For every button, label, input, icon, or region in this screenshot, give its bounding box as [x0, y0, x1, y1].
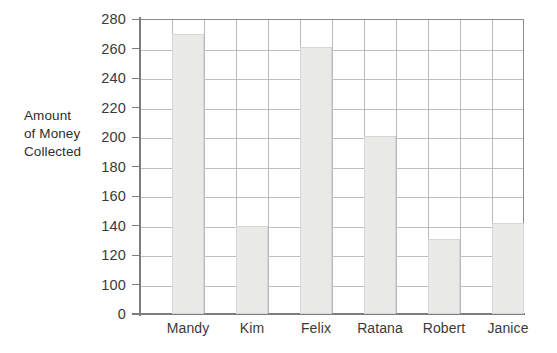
bar-mandy [172, 34, 204, 314]
bar-felix [300, 47, 332, 314]
y-axis-tick [132, 225, 140, 226]
y-axis-tick [132, 255, 140, 256]
bar-janice [492, 223, 524, 314]
y-axis-tick [132, 137, 140, 138]
x-axis-tick-label: Janice [463, 320, 553, 336]
y-axis-tick [132, 196, 140, 197]
y-axis-tick [132, 19, 140, 20]
y-axis-tick [132, 48, 140, 49]
y-axis-tick [132, 107, 140, 108]
y-axis-tick [132, 166, 140, 167]
y-axis-tick [132, 284, 140, 285]
y-axis-tick [132, 314, 140, 315]
bar-chart-figure: Amount of Money Collected 28026024022020… [0, 0, 557, 353]
bar-kim [236, 226, 268, 315]
bars-layer: MandyKimFelixRatanaRobertJanice [0, 0, 557, 353]
y-axis-tick [132, 78, 140, 79]
bar-robert [428, 239, 460, 314]
bar-ratana [364, 136, 396, 314]
